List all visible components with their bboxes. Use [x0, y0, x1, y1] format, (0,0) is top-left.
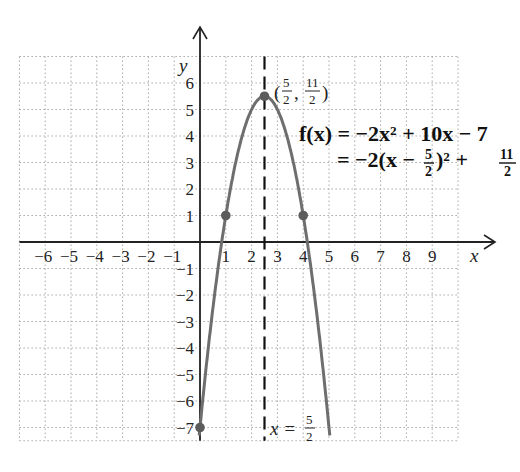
- y-tick-label: 1: [186, 207, 195, 226]
- svg-text:x =: x =: [269, 418, 296, 439]
- x-tick-label: 4: [299, 247, 308, 266]
- y-tick-label: −3: [176, 313, 194, 332]
- y-tick-label: −1: [176, 260, 194, 279]
- y-tick-label: 6: [186, 74, 195, 93]
- data-point: [298, 211, 308, 221]
- y-axis-label: y: [177, 55, 188, 76]
- x-tick-label: 7: [376, 247, 385, 266]
- x-tick-label: 9: [428, 247, 437, 266]
- y-tick-label: 5: [186, 101, 195, 120]
- svg-text:= −2(x −: = −2(x −: [337, 147, 415, 172]
- svg-text:f(x) = −2x² + 10x − 7: f(x) = −2x² + 10x − 7: [299, 121, 488, 146]
- symmetry-label: x = 5 2: [269, 412, 315, 444]
- svg-text:5: 5: [425, 147, 432, 162]
- y-tick-label: 3: [186, 154, 195, 173]
- equation-label: f(x) = −2x² + 10x − 7 = −2(x − 5 2 )² + …: [299, 121, 516, 179]
- svg-text:2: 2: [425, 164, 432, 179]
- x-tick-label: −2: [137, 247, 155, 266]
- y-tick-label: −7: [176, 419, 195, 438]
- svg-text:5: 5: [306, 412, 313, 427]
- x-axis-label: x: [469, 245, 479, 266]
- x-tick-label: 1: [222, 247, 231, 266]
- x-tick-label: −6: [34, 247, 52, 266]
- svg-text:2: 2: [283, 92, 290, 107]
- svg-text:2: 2: [309, 92, 316, 107]
- data-point: [260, 91, 270, 101]
- y-tick-label: 2: [186, 180, 195, 199]
- x-tick-label: −3: [112, 247, 130, 266]
- svg-text:)² +: )² +: [436, 147, 468, 172]
- y-tick-label: −6: [176, 392, 194, 411]
- x-tick-label: −4: [86, 247, 105, 266]
- y-tick-label: −5: [176, 366, 194, 385]
- x-tick-label: −5: [60, 247, 78, 266]
- data-point: [195, 423, 205, 433]
- vertex-label: ( 5 2 , 11 2 ): [274, 75, 328, 107]
- svg-text:): ): [322, 82, 328, 104]
- x-tick-label: 6: [351, 247, 360, 266]
- svg-text:5: 5: [283, 75, 290, 90]
- y-tick-label: −2: [176, 286, 194, 305]
- x-tick-label: 5: [325, 247, 334, 266]
- svg-text:11: 11: [500, 147, 513, 162]
- x-tick-label: 8: [402, 247, 411, 266]
- y-tick-label: 4: [186, 127, 195, 146]
- y-tick-label: −4: [176, 339, 195, 358]
- svg-text:,: ,: [294, 82, 299, 103]
- svg-text:11: 11: [306, 75, 319, 90]
- svg-text:2: 2: [306, 429, 313, 444]
- x-tick-label: 2: [247, 247, 256, 266]
- axes: [19, 27, 495, 441]
- svg-text:(: (: [274, 82, 280, 104]
- svg-text:2: 2: [504, 164, 511, 179]
- data-point: [221, 211, 231, 221]
- parabola-chart: −6−5−4−3−2−1123456789654321−1−2−3−4−5−6−…: [0, 0, 520, 472]
- x-tick-label: 3: [273, 247, 282, 266]
